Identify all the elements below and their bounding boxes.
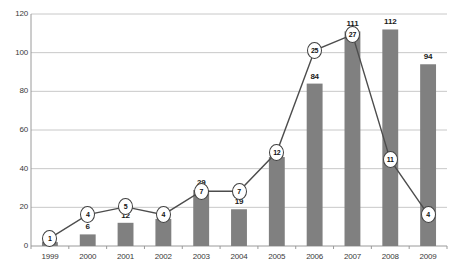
bar — [231, 209, 247, 246]
x-axis-tick-label: 2007 — [332, 252, 372, 261]
bar-value-label: 94 — [408, 52, 448, 61]
x-axis-tick-label: 2000 — [68, 252, 108, 261]
chart-container: 0204060801001201999200020012002200320042… — [0, 0, 451, 273]
x-axis-tick-label: 2005 — [257, 252, 297, 261]
line-marker: 7 — [232, 183, 247, 200]
line-marker: 27 — [345, 26, 360, 43]
bar-value-label: 6 — [68, 222, 108, 231]
bar — [345, 31, 361, 246]
x-axis-tick-label: 2008 — [370, 252, 410, 261]
line-marker: 12 — [269, 144, 284, 161]
y-axis-tick-label: 20 — [0, 202, 28, 211]
x-axis-tick-label: 1999 — [30, 252, 70, 261]
x-axis-tick-label: 2003 — [181, 252, 221, 261]
y-axis-tick-label: 100 — [0, 48, 28, 57]
x-axis-tick-label: 2001 — [106, 252, 146, 261]
bar — [307, 84, 323, 246]
bar — [382, 29, 398, 246]
x-axis-tick-label: 2009 — [408, 252, 448, 261]
x-axis-tick-label: 2004 — [219, 252, 259, 261]
y-axis-tick-label: 40 — [0, 164, 28, 173]
bar-value-label: 84 — [295, 72, 335, 81]
line-marker: 4 — [421, 206, 436, 223]
x-axis-tick-label: 2002 — [143, 252, 183, 261]
bar — [80, 234, 96, 246]
bar — [118, 223, 134, 246]
y-axis-tick-label: 60 — [0, 125, 28, 134]
line-marker: 25 — [307, 42, 322, 59]
line-marker: 7 — [194, 183, 209, 200]
line-marker: 11 — [383, 151, 398, 168]
line-marker: 4 — [156, 206, 171, 223]
y-axis-tick-label: 80 — [0, 86, 28, 95]
y-axis-tick-label: 0 — [0, 241, 28, 250]
bar-value-label: 112 — [370, 17, 410, 26]
x-axis-tick-label: 2006 — [295, 252, 335, 261]
bar — [269, 157, 285, 246]
y-axis-tick-label: 120 — [0, 9, 28, 18]
